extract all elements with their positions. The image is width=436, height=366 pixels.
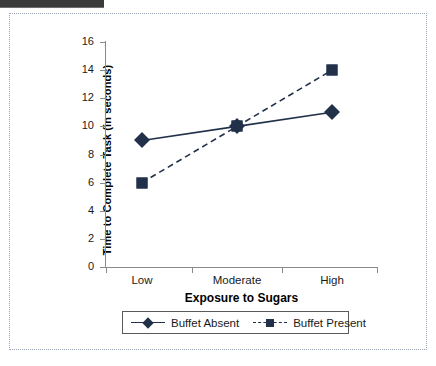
x-tick-label: Moderate xyxy=(197,274,277,286)
y-tick-label: 2 xyxy=(68,233,94,244)
legend-item-buffet-present: Buffet Present xyxy=(253,312,366,333)
legend-label-buffet-absent: Buffet Absent xyxy=(171,317,239,329)
y-tick-label-wrap: 8 xyxy=(68,149,94,160)
diamond-marker-icon xyxy=(142,317,153,328)
y-tick-label: 6 xyxy=(68,177,94,188)
y-tick-label: 8 xyxy=(68,149,94,160)
y-tick-mark xyxy=(100,211,105,212)
chart-legend: Buffet Absent Buffet Present xyxy=(122,311,349,334)
y-tick-mark xyxy=(100,42,105,43)
legend-sample-solid xyxy=(131,317,165,329)
y-tick-mark xyxy=(100,126,105,127)
y-tick-label-wrap: 10 xyxy=(68,120,94,131)
series-lines xyxy=(106,42,377,267)
y-tick-label-wrap: 2 xyxy=(68,233,94,244)
data-point-marker xyxy=(327,65,338,76)
x-tick-mark xyxy=(192,268,193,273)
data-point-marker xyxy=(232,121,243,132)
y-tick-label-wrap: 6 xyxy=(68,177,94,188)
legend-sample-dashed xyxy=(253,317,287,329)
legend-label-buffet-present: Buffet Present xyxy=(293,317,366,329)
y-tick-mark xyxy=(100,239,105,240)
x-axis-label: Exposure to Sugars xyxy=(106,291,377,305)
page-header-strip xyxy=(0,0,104,8)
data-point-marker xyxy=(137,177,148,188)
plot-area xyxy=(106,42,377,267)
y-tick-mark xyxy=(100,70,105,71)
legend-item-buffet-absent: Buffet Absent xyxy=(131,312,239,333)
x-tick-mark xyxy=(106,268,107,273)
x-axis-line xyxy=(105,267,378,268)
figure-root: Time to Complete Task (in seconds) 02468… xyxy=(0,0,436,366)
y-tick-label-wrap: 16 xyxy=(68,36,94,47)
x-tick-mark xyxy=(282,268,283,273)
y-tick-label: 12 xyxy=(68,92,94,103)
y-tick-label: 10 xyxy=(68,120,94,131)
y-tick-label-wrap: 0 xyxy=(68,261,94,272)
y-tick-mark xyxy=(100,267,105,268)
x-tick-label: Low xyxy=(102,274,182,286)
x-tick-label: High xyxy=(292,274,372,286)
y-tick-label: 14 xyxy=(68,64,94,75)
y-tick-mark xyxy=(100,183,105,184)
y-tick-label-wrap: 12 xyxy=(68,92,94,103)
y-tick-mark xyxy=(100,98,105,99)
x-tick-mark xyxy=(377,268,378,273)
square-marker-icon xyxy=(266,319,274,327)
y-tick-mark xyxy=(100,155,105,156)
y-tick-label: 4 xyxy=(68,205,94,216)
y-tick-label-wrap: 4 xyxy=(68,205,94,216)
y-tick-label: 16 xyxy=(68,36,94,47)
y-tick-label-wrap: 14 xyxy=(68,64,94,75)
y-tick-label: 0 xyxy=(68,261,94,272)
